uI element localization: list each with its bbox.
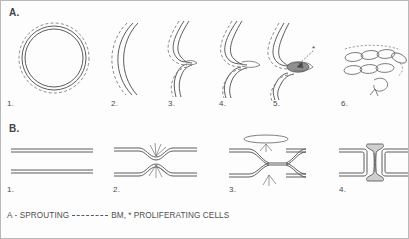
panel-number-a6: 6. [341, 99, 348, 108]
panel-number-a4: 4. [219, 99, 226, 108]
panel-number-b4: 4. [339, 185, 346, 194]
asterisk-marker-a5: * [312, 44, 315, 53]
panel-a4-enlarged-sprout [221, 21, 260, 98]
panel-number-a1: 1. [7, 99, 14, 108]
panel-number-a2: 2. [111, 99, 118, 108]
panel-b3-wall-contact [229, 135, 306, 186]
panel-b1-straight-vessel [11, 149, 93, 173]
panel-number-a5: 5. [273, 99, 280, 108]
panel-a2-curved-vessel [112, 23, 138, 95]
diagram-canvas: * [1, 1, 409, 239]
panel-a3-small-bud [168, 21, 197, 97]
legend-bm-label: BM, [111, 211, 126, 220]
figure-legend: A - SPROUTING BM, * PROLIFERATING CELLS [7, 211, 229, 220]
panel-a6-cell-chain [344, 45, 408, 96]
panel-number-a3: 3. [168, 99, 175, 108]
panel-b4-tissue-pillar [339, 144, 409, 181]
legend-proliferating-label: * PROLIFERATING CELLS [128, 211, 229, 220]
basement-membrane-key-line [72, 215, 108, 216]
angiogenesis-figure: A. [0, 0, 409, 239]
panel-number-b3: 3. [229, 185, 236, 194]
panel-a1-vessel-cross-section [19, 23, 89, 93]
section-letter-b: B. [9, 123, 20, 134]
panel-number-b2: 2. [113, 185, 120, 194]
panel-b2-wall-protrusion [114, 143, 197, 178]
panel-number-b1: 1. [7, 185, 14, 194]
legend-sprouting-label: A - SPROUTING [7, 211, 69, 220]
panel-a5-proliferating-cells: * [268, 23, 315, 101]
